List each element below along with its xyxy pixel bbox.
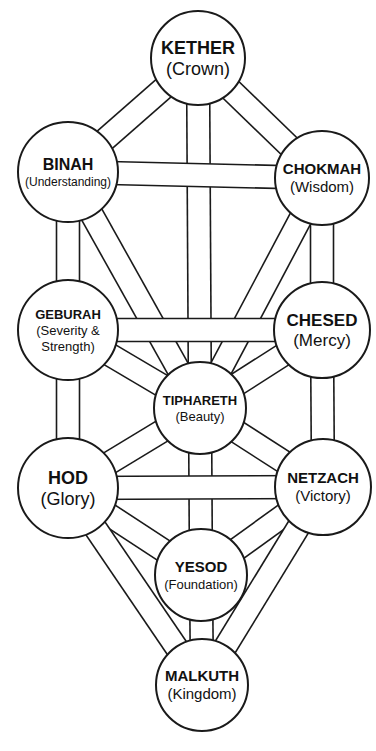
sephira-name: KETHER [161,38,235,58]
sephira-malkuth: MALKUTH(Kingdom) [156,639,248,731]
sephira-meaning: (Understanding) [25,175,111,189]
sephira-name: NETZACH [287,469,359,486]
sephira-netzach: NETZACH(Victory) [275,439,371,535]
sephira-meaning: (Mercy) [293,331,351,350]
sephira-binah: BINAH(Understanding) [18,122,118,222]
sephira-name: BINAH [43,156,94,173]
sephira-meaning: Strength) [41,339,94,354]
sephira-name: HOD [48,468,88,488]
sephira-name: CHOKMAH [283,160,361,177]
sephira-name: GEBURAH [35,307,101,322]
tree-of-life-diagram: KETHER(Crown)BINAH(Understanding)CHOKMAH… [0,0,376,751]
path-kether-tiphareth [187,58,212,408]
sephira-geburah: GEBURAH(Severity &Strength) [18,280,118,380]
sephira-name: CHESED [287,311,358,330]
sephira-name: TIPHARETH [163,393,237,408]
sephira-kether: KETHER(Crown) [151,11,245,105]
sephira-hod: HOD(Glory) [18,438,118,538]
sephira-meaning: (Severity & [36,323,100,338]
sephira-name: MALKUTH [165,667,239,684]
tree-of-life-canvas: KETHER(Crown)BINAH(Understanding)CHOKMAH… [0,0,376,751]
sephira-tiphareth: TIPHARETH(Beauty) [154,362,246,454]
sephira-meaning: (Victory) [295,487,351,504]
sephira-chesed: CHESED(Mercy) [274,282,370,378]
sephira-chokmah: CHOKMAH(Wisdom) [275,131,369,225]
sephira-meaning: (Kingdom) [167,685,236,702]
sephira-meaning: (Foundation) [164,577,238,592]
sephira-meaning: (Wisdom) [290,178,354,195]
sephira-meaning: (Glory) [41,489,96,509]
sephira-meaning: (Beauty) [175,409,224,424]
sephira-meaning: (Crown) [166,59,230,79]
sephira-name: YESOD [175,558,228,575]
sephira-yesod: YESOD(Foundation) [155,529,247,621]
